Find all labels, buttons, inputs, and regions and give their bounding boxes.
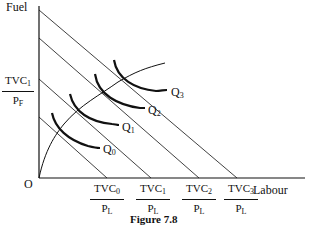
isoquant-label-q3: Q3: [171, 86, 184, 102]
label-base: Q: [122, 120, 131, 134]
numerator-subscript: 0: [116, 187, 120, 196]
y-intercept-label: TVC1 PF: [2, 74, 34, 110]
label-base: Q: [148, 103, 157, 117]
label-subscript: 1: [131, 126, 135, 135]
numerator: TVC: [5, 74, 27, 86]
numerator-subscript: 2: [208, 187, 212, 196]
numerator-subscript: 1: [162, 187, 166, 196]
expansion-path: [39, 63, 165, 178]
label-subscript: 0: [112, 148, 116, 157]
isoquant-label-q1: Q1: [122, 121, 135, 137]
numerator-subscript: 1: [27, 79, 31, 88]
denominator-subscript: L: [108, 207, 113, 216]
x-axis-label: Labour: [253, 184, 288, 196]
isocost-line-3: [39, 10, 237, 178]
label-subscript: 3: [180, 91, 184, 100]
numerator: TVC: [94, 182, 116, 194]
x-intercept-label-0: TVC0 PL: [90, 182, 124, 218]
denominator-subscript: L: [242, 207, 247, 216]
figure-caption: Figure 7.8: [130, 213, 177, 225]
isoquant-label-q2: Q2: [148, 104, 161, 120]
numerator: TVC: [186, 182, 208, 194]
origin-label: O: [24, 178, 33, 190]
denominator-subscript: F: [19, 99, 23, 108]
label-subscript: 2: [157, 109, 161, 118]
label-base: Q: [171, 85, 180, 99]
label-base: Q: [103, 142, 112, 156]
numerator-subscript: 3: [250, 187, 254, 196]
numerator: TVC: [140, 182, 162, 194]
y-axis-label: Fuel: [6, 1, 27, 13]
x-intercept-label-3: TVC3 PL: [224, 182, 258, 218]
numerator: TVC: [228, 182, 250, 194]
isoquant-label-q0: Q0: [103, 143, 116, 159]
denominator-subscript: L: [200, 207, 205, 216]
isocost-line-2: [39, 38, 199, 178]
x-intercept-label-2: TVC2 PL: [182, 182, 216, 218]
